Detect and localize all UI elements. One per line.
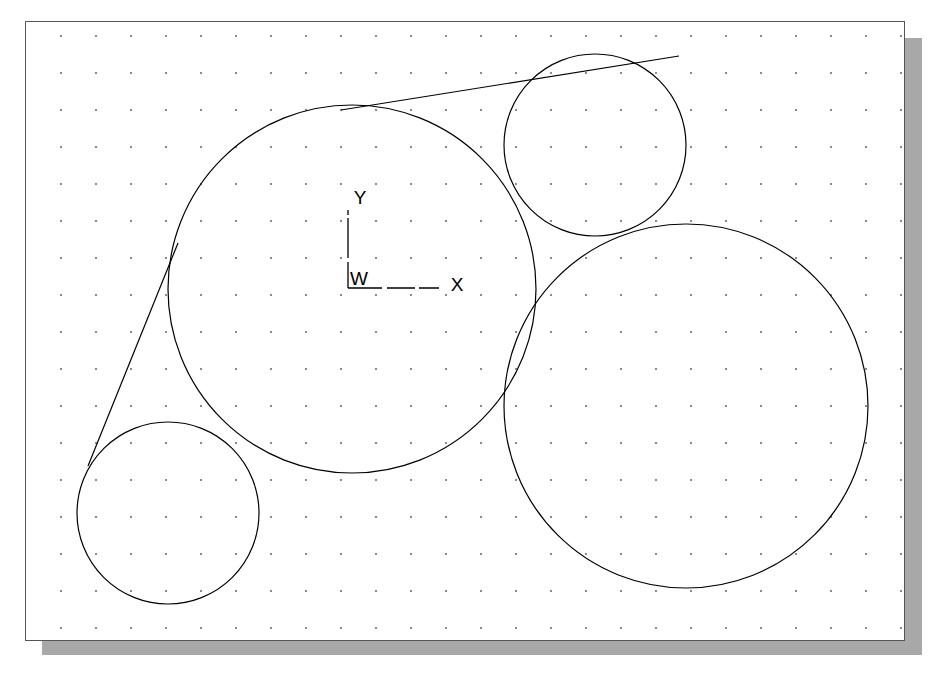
grid-dot (130, 368, 132, 370)
grid-dot (620, 368, 622, 370)
grid-dot (410, 368, 412, 370)
grid-dot (200, 479, 202, 481)
grid-dot (60, 442, 62, 444)
grid-dot (655, 109, 657, 111)
grid-dot (200, 257, 202, 259)
grid-dot (95, 257, 97, 259)
grid-dot (60, 368, 62, 370)
grid-dot (585, 72, 587, 74)
tangent-line-upper[interactable] (341, 56, 679, 110)
grid-dot (480, 146, 482, 148)
grid-dot (235, 183, 237, 185)
grid-dot (585, 442, 587, 444)
grid-dot (550, 146, 552, 148)
grid-dot (375, 257, 377, 259)
grid-dot (95, 35, 97, 37)
grid-dot (795, 257, 797, 259)
grid-dot-layer (60, 35, 902, 629)
grid-dot (165, 294, 167, 296)
grid-dot (585, 183, 587, 185)
grid-dot (900, 35, 902, 37)
grid-dot (270, 405, 272, 407)
grid-dot (235, 72, 237, 74)
circle-top-right[interactable] (504, 54, 686, 236)
grid-dot (410, 590, 412, 592)
grid-dot (305, 146, 307, 148)
grid-dot (60, 479, 62, 481)
grid-dot (515, 72, 517, 74)
grid-dot (690, 516, 692, 518)
circle-bottom-left[interactable] (77, 422, 259, 604)
grid-dot (95, 405, 97, 407)
grid-dot (585, 331, 587, 333)
grid-dot (725, 183, 727, 185)
grid-dot (795, 590, 797, 592)
grid-dot (515, 590, 517, 592)
grid-dot (865, 516, 867, 518)
grid-dot (865, 183, 867, 185)
grid-dot (445, 553, 447, 555)
grid-dot (410, 72, 412, 74)
grid-dot (60, 109, 62, 111)
grid-dot (130, 405, 132, 407)
grid-dot (550, 257, 552, 259)
grid-dot (795, 331, 797, 333)
grid-dot (585, 590, 587, 592)
grid-dot (830, 109, 832, 111)
grid-dot (410, 257, 412, 259)
grid-dot (515, 109, 517, 111)
grid-dot (725, 146, 727, 148)
clipped-caption-text: · · · · · (0, 0, 44, 6)
grid-dot (480, 627, 482, 629)
grid-dot (130, 220, 132, 222)
grid-dot (445, 479, 447, 481)
grid-dot (830, 553, 832, 555)
grid-dot (655, 294, 657, 296)
tangent-line-lower-left[interactable] (88, 243, 178, 466)
cad-canvas[interactable]: YXW (26, 22, 904, 640)
grid-dot (375, 479, 377, 481)
grid-dot (235, 479, 237, 481)
grid-dot (305, 294, 307, 296)
grid-dot (760, 590, 762, 592)
grid-dot (725, 405, 727, 407)
grid-dot (655, 220, 657, 222)
grid-dot (200, 146, 202, 148)
grid-dot (60, 405, 62, 407)
grid-dot (130, 183, 132, 185)
grid-dot (375, 72, 377, 74)
grid-dot (900, 516, 902, 518)
grid-dot (445, 35, 447, 37)
circle-bottom-right[interactable] (504, 224, 868, 588)
grid-dot (550, 183, 552, 185)
grid-dot (165, 183, 167, 185)
grid-dot (235, 257, 237, 259)
grid-dot (690, 442, 692, 444)
grid-dot (480, 590, 482, 592)
grid-dot (655, 627, 657, 629)
grid-dot (515, 553, 517, 555)
grid-dot (585, 294, 587, 296)
grid-dot (760, 516, 762, 518)
grid-dot (725, 220, 727, 222)
grid-dot (725, 516, 727, 518)
grid-dot (410, 109, 412, 111)
circle-large-center[interactable] (168, 105, 536, 473)
grid-dot (270, 109, 272, 111)
grid-dot (60, 35, 62, 37)
grid-dot (585, 109, 587, 111)
grid-dot (585, 627, 587, 629)
ucs-y-label: Y (354, 187, 367, 208)
grid-dot (550, 479, 552, 481)
grid-dot (550, 516, 552, 518)
grid-dot (60, 72, 62, 74)
grid-dot (305, 479, 307, 481)
grid-dot (305, 331, 307, 333)
grid-dot (655, 442, 657, 444)
grid-dot (480, 257, 482, 259)
grid-dot (655, 479, 657, 481)
grid-dot (900, 294, 902, 296)
grid-dot (795, 146, 797, 148)
grid-dot (235, 294, 237, 296)
grid-dot (305, 627, 307, 629)
